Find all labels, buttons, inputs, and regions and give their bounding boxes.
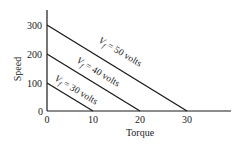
label-vf-50-rest: = 50 volts <box>104 39 144 69</box>
line-vf-50 <box>47 25 187 111</box>
speed-torque-chart: 300 200 100 0 0 10 20 30 Torque Speed Vf… <box>0 0 240 146</box>
x-axis-label: Torque <box>126 127 155 138</box>
x-tick-30: 30 <box>182 114 192 125</box>
x-tick-0: 0 <box>45 114 50 125</box>
label-vf-40-rest: = 40 volts <box>82 59 122 89</box>
x-tick-10: 10 <box>88 114 98 125</box>
y-tick-200: 200 <box>27 49 42 60</box>
y-tick-100: 100 <box>27 78 42 89</box>
y-tick-300: 300 <box>27 20 42 31</box>
label-vf-50: Vf = 50 volts <box>96 35 144 71</box>
y-axis-label: Speed <box>12 57 23 81</box>
x-tick-20: 20 <box>135 114 145 125</box>
y-tick-0: 0 <box>38 106 43 117</box>
